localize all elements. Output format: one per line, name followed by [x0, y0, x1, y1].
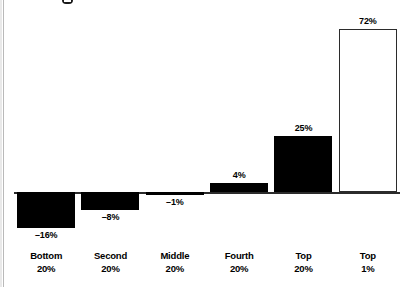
category-label: Top20%	[271, 249, 335, 275]
category-label-line2: 20%	[207, 262, 271, 275]
bar-group: 25%Top20%	[271, 0, 335, 287]
bar-value-label: 72%	[333, 16, 403, 26]
bars-container: –16%Bottom20%–8%Second20%–1%Middle20%4%F…	[14, 0, 400, 287]
bar-group: –1%Middle20%	[143, 0, 207, 287]
category-label-line2: 20%	[14, 262, 78, 275]
category-label-line2: 20%	[78, 262, 142, 275]
category-label-line1: Fourth	[207, 249, 271, 262]
category-label-line1: Middle	[143, 249, 207, 262]
bar-top-20	[274, 136, 332, 193]
category-label-line1: Top	[271, 249, 335, 262]
category-label-line2: 1%	[336, 262, 400, 275]
bar-second-20	[81, 192, 139, 210]
bar-group: 72%Top1%	[336, 0, 400, 287]
bar-group: 4%Fourth20%	[207, 0, 271, 287]
category-label: Fourth20%	[207, 249, 271, 275]
bar-value-label: 4%	[204, 170, 274, 180]
category-label-line2: 20%	[271, 262, 335, 275]
bar-value-label: –16%	[11, 230, 81, 240]
category-label: Middle20%	[143, 249, 207, 275]
bar-middle-20	[146, 192, 204, 195]
category-label-line1: Second	[78, 249, 142, 262]
bar-group: –16%Bottom20%	[14, 0, 78, 287]
plot-area: –16%Bottom20%–8%Second20%–1%Middle20%4%F…	[14, 0, 400, 287]
bar-fourth-20	[210, 183, 268, 192]
bar-bottom-20	[17, 192, 75, 228]
bar-top-1	[339, 29, 397, 192]
category-label: Top1%	[336, 249, 400, 275]
category-label-line1: Bottom	[14, 249, 78, 262]
category-label-line1: Top	[336, 249, 400, 262]
bar-value-label: –8%	[76, 212, 146, 222]
bar-value-label: –1%	[140, 197, 210, 207]
category-label: Second20%	[78, 249, 142, 275]
scan-edge-artifact	[0, 0, 2, 287]
bar-group: –8%Second20%	[78, 0, 142, 287]
category-label: Bottom20%	[14, 249, 78, 275]
category-label-line2: 20%	[143, 262, 207, 275]
bar-value-label: 25%	[269, 123, 339, 133]
bar-chart: –16%Bottom20%–8%Second20%–1%Middle20%4%F…	[0, 0, 414, 287]
scan-edge-line	[3, 0, 4, 287]
